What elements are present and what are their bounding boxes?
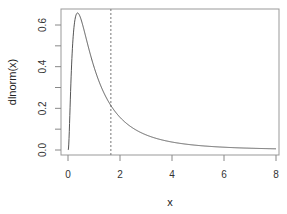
y-tick-label: 0.2 [37, 101, 48, 115]
y-tick-label: 0.4 [37, 59, 48, 73]
y-axis: 0.00.20.40.6 [37, 18, 61, 157]
chart: 02468 0.00.20.40.6 x dlnorm(x) [0, 0, 287, 214]
x-tick-label: 2 [117, 169, 123, 180]
x-tick-label: 0 [65, 169, 71, 180]
x-axis: 02468 [65, 155, 279, 180]
x-tick-label: 4 [169, 169, 175, 180]
plot-frame [61, 9, 279, 155]
x-tick-label: 8 [273, 169, 279, 180]
density-curve [68, 13, 276, 150]
y-tick-label: 0.0 [37, 143, 48, 157]
y-tick-label: 0.6 [37, 18, 48, 32]
x-axis-label: x [167, 196, 173, 208]
y-axis-label: dlnorm(x) [6, 59, 18, 105]
x-tick-label: 6 [221, 169, 227, 180]
